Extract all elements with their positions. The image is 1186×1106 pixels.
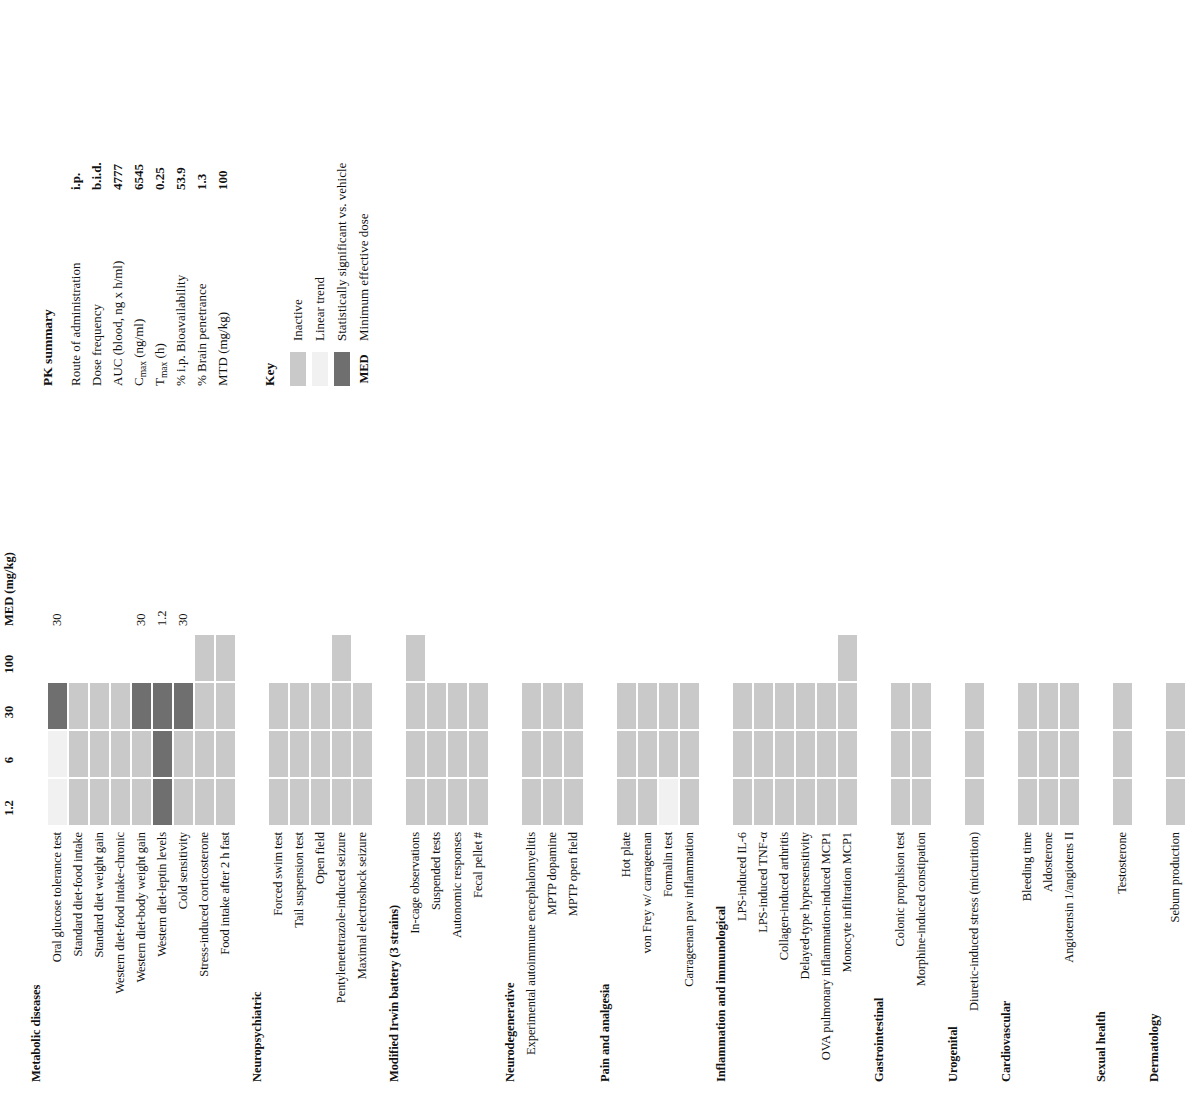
heatmap-cell-group: [1165, 635, 1186, 825]
section-header-row: Metabolic diseases: [26, 568, 47, 1082]
assay-label-diuretic-induced-stress-micturition: Diuretic-induced stress (micturition): [964, 825, 985, 1082]
heatmap-cell-100-none: [617, 635, 636, 681]
pk-param-route-of-administration: Route of administration: [68, 190, 84, 386]
heatmap-cell-1-2-inactive: [111, 779, 130, 825]
assay-label-western-diet-body-weight-gain: Western diet-body weight gain: [131, 825, 152, 1082]
heatmap-cell-100-none: [290, 635, 309, 681]
assay-label-food-intake-after-2-h-fast: Food intake after 2 h fast: [215, 825, 236, 1082]
heatmap-cell-6-inactive: [311, 731, 330, 777]
assay-label-testosterone: Testosterone: [1112, 825, 1133, 1082]
legend-key: Key InactiveLinear trendStatistically si…: [262, 163, 375, 386]
legend-rows: InactiveLinear trendStatistically signif…: [287, 163, 375, 386]
pk-summary-table: PK summary Route of administrationi.p.Do…: [40, 162, 236, 386]
heatmap-cell-1-2-inactive: [543, 779, 562, 825]
heatmap-cell-1-2-inactive: [733, 779, 752, 825]
med-value: [563, 568, 584, 635]
heatmap-cell-30-inactive: [216, 683, 235, 729]
heatmap-cell-group: [426, 635, 447, 825]
heatmap-cell-group: [911, 635, 932, 825]
med-value: [964, 568, 985, 635]
heatmap-cell-6-inactive: [796, 731, 815, 777]
assay-label-mptp-open-field: MPTP open field: [563, 825, 584, 1082]
heatmap-cell-30-inactive: [522, 683, 541, 729]
assay-label-hot-plate: Hot plate: [616, 825, 637, 1082]
assay-label-mptp-dopamine: MPTP dopamine: [542, 825, 563, 1082]
med-value: [194, 568, 215, 635]
med-value: [331, 568, 352, 635]
heatmap-cell-group: [753, 635, 774, 825]
heatmap-row: Suspended tests: [426, 568, 447, 1082]
heatmap-cell-6-inactive: [659, 731, 678, 777]
heatmap-row: Angiotensin 1/angiotens II: [1059, 568, 1080, 1082]
heatmap-cell-100-none: [754, 635, 773, 681]
heatmap-cell-6-trend: [48, 731, 67, 777]
heatmap-cell-30-sig: [48, 683, 67, 729]
heatmap-cell-group: [816, 635, 837, 825]
heatmap-row: Standard diet-food intake: [68, 568, 89, 1082]
pk-value: i.p.: [68, 173, 84, 190]
heatmap-cell-100-none: [469, 635, 488, 681]
heatmap-cell-group: [679, 635, 700, 825]
heatmap-row: Stress-induced corticosterone: [194, 568, 215, 1082]
section-title-neuropsychiatric: Neuropsychiatric: [247, 825, 268, 1082]
heatmap-row: Food intake after 2 h fast: [215, 568, 236, 1082]
heatmap-row: Cold sensitivity30: [173, 568, 194, 1082]
heatmap-cell-6-inactive: [353, 731, 372, 777]
heatmap-cell-1-2-inactive: [638, 779, 657, 825]
heatmap-cell-6-inactive: [195, 731, 214, 777]
legend-label-statistically-significant-vs-vehicle: Statistically significant vs. vehicle: [334, 163, 350, 341]
pk-row: AUC (blood, ng x h/ml)4777: [110, 162, 131, 386]
section-spacer: [236, 568, 247, 1082]
heatmap-cell-group: [1112, 635, 1133, 825]
med-value: [310, 568, 331, 635]
heatmap-cell-group: [563, 635, 584, 825]
heatmap-row: Monocyte infiltration MCP1: [837, 568, 858, 1082]
heatmap-row: Collagen-induced arthritis: [774, 568, 795, 1082]
heatmap-row: OVA pulmonary inflammation-induced MCP1: [816, 568, 837, 1082]
pk-value: 6545: [131, 164, 147, 190]
section-spacer: [1133, 568, 1144, 1082]
heatmap-cell-30-inactive: [543, 683, 562, 729]
heatmap-cell-group: [1059, 635, 1080, 825]
assay-heatmap: Metabolic diseasesOral glucose tolerance…: [26, 568, 1186, 1082]
heatmap-cell-group: [616, 635, 637, 825]
section-header-row: Dermatology: [1144, 568, 1165, 1082]
heatmap-cell-group: [1038, 635, 1059, 825]
heatmap-cell-100-none: [1060, 635, 1079, 681]
med-value: [911, 568, 932, 635]
section-header-row: Sexual health: [1091, 568, 1112, 1082]
med-value: [521, 568, 542, 635]
heatmap-cell-group: [215, 635, 236, 825]
assay-label-aldosterone: Aldosterone: [1038, 825, 1059, 1082]
heatmap-row: Standard diet weight gain: [89, 568, 110, 1082]
pk-summary-rows: Route of administrationi.p.Dose frequenc…: [68, 162, 236, 386]
heatmap-cell-100-inactive: [838, 635, 857, 681]
heatmap-cell-1-2-inactive: [311, 779, 330, 825]
heatmap-row: Forced swim test: [268, 568, 289, 1082]
heatmap-cell-30-inactive: [659, 683, 678, 729]
heatmap-cell-100-none: [132, 635, 151, 681]
heatmap-cell-6-inactive: [522, 731, 541, 777]
med-value: [68, 568, 89, 635]
heatmap-cell-100-none: [775, 635, 794, 681]
heatmap-row: Hot plate: [616, 568, 637, 1082]
med-value: [1112, 568, 1133, 635]
med-value: 1.2: [152, 568, 173, 635]
heatmap-row: Western diet-food intake-chronic: [110, 568, 131, 1082]
assay-label-open-field: Open field: [310, 825, 331, 1082]
legend-item: Statistically significant vs. vehicle: [331, 163, 353, 386]
med-value: [732, 568, 753, 635]
assay-label-monocyte-infiltration-mcp1: Monocyte infiltration MCP1: [837, 825, 858, 1082]
pk-value: 1.3: [194, 174, 210, 190]
heatmap-row: Colonic propulsion test: [890, 568, 911, 1082]
legend-item: Linear trend: [309, 163, 331, 386]
heatmap-cell-30-inactive: [90, 683, 109, 729]
section-title-cardiovascular: Cardiovascular: [996, 825, 1017, 1082]
heatmap-cell-1-2-inactive: [564, 779, 583, 825]
med-value: [1165, 568, 1186, 635]
heatmap-cell-group: [468, 635, 489, 825]
heatmap-cell-30-inactive: [733, 683, 752, 729]
pk-value: 53.9: [173, 167, 189, 190]
heatmap-cell-1-2-inactive: [448, 779, 467, 825]
heatmap-cell-100-none: [153, 635, 172, 681]
